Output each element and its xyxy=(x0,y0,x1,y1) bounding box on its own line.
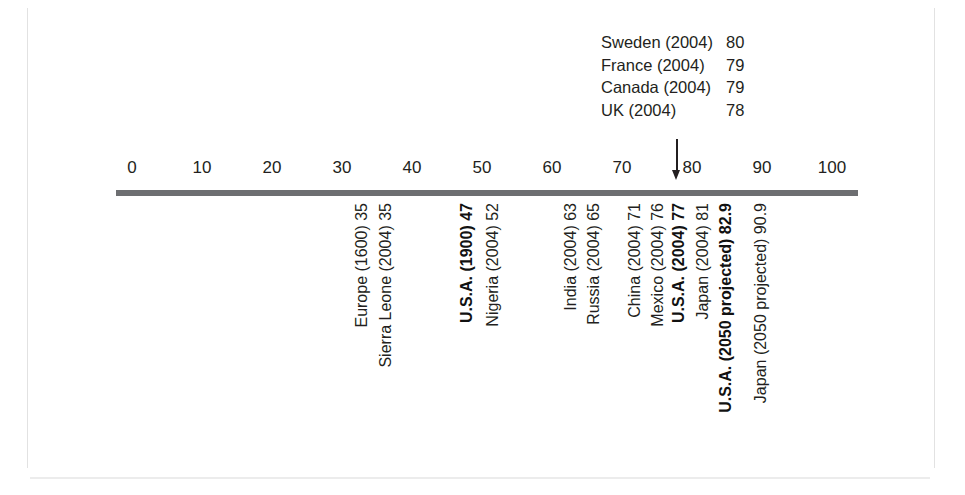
data-label-layer: Europe (1600) 35Sierra Leone (2004) 35U.… xyxy=(0,0,965,495)
data-label: U.S.A. (1900) 47 xyxy=(458,203,475,323)
figure-canvas: Sweden (2004)80 France (2004)79 Canada (… xyxy=(0,0,965,495)
data-label: China (2004) 71 xyxy=(626,203,643,318)
data-label: Europe (1600) 35 xyxy=(353,203,370,328)
data-label: Sierra Leone (2004) 35 xyxy=(377,203,394,368)
data-label: India (2004) 63 xyxy=(562,203,579,311)
data-label: Mexico (2004) 76 xyxy=(649,203,666,327)
data-label: U.S.A. (2004) 77 xyxy=(670,203,687,323)
data-label: Nigeria (2004) 52 xyxy=(484,203,501,327)
data-label: U.S.A. (2050 projected) 82.9 xyxy=(717,203,734,413)
data-label: Russia (2004) 65 xyxy=(585,203,602,325)
data-label: Japan (2004) 81 xyxy=(694,203,711,320)
data-label: Japan (2050 projected) 90.9 xyxy=(752,203,769,403)
